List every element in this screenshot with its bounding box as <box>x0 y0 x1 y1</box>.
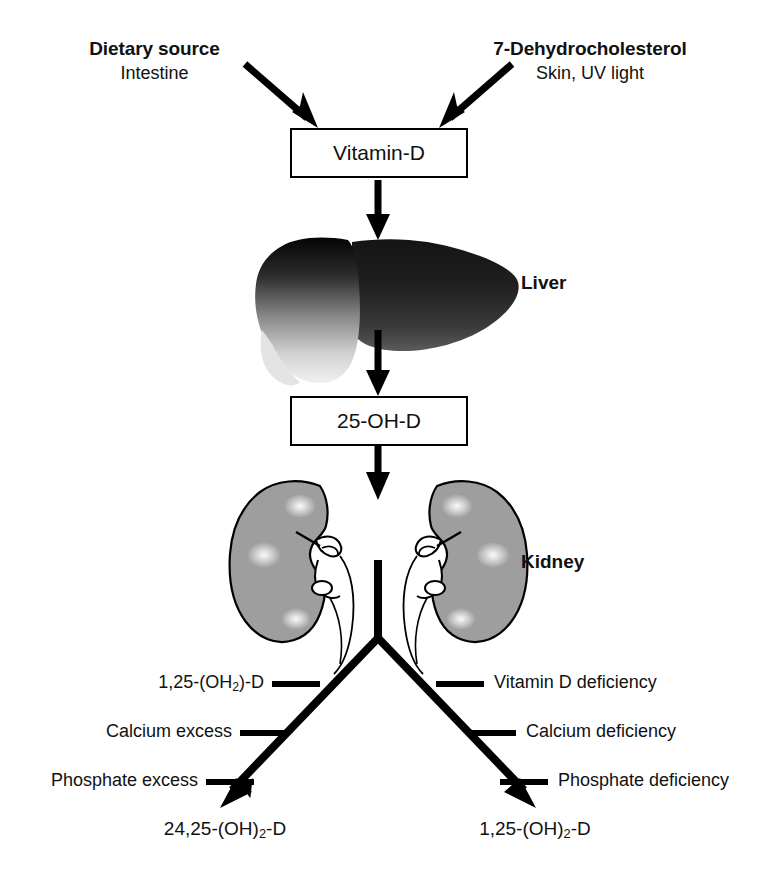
terminal-right-prefix: 1,25-(OH) <box>479 818 563 839</box>
node-box-vitamin-d-label: Vitamin-D <box>333 141 425 165</box>
right-regulator-2: Calcium deficiency <box>526 721 676 742</box>
arrow-vitamind-to-liver <box>366 180 390 240</box>
source-dietary: Dietary source Intestine <box>62 38 247 84</box>
left-regulator-1-prefix: 1,25-(OH <box>158 672 232 692</box>
terminal-left-suffix: -D <box>266 818 286 839</box>
left-regulator-1: 1,25-(OH2)-D <box>0 672 264 693</box>
node-box-25-oh-d: 25-OH-D <box>290 396 468 446</box>
organ-label-liver: Liver <box>521 272 566 294</box>
terminal-left-prefix: 24,25-(OH) <box>164 818 259 839</box>
right-regulator-3: Phosphate deficiency <box>558 770 729 791</box>
node-box-25-oh-d-label: 25-OH-D <box>337 409 421 433</box>
terminal-product-right: 1,25-(OH)2-D <box>420 818 650 840</box>
left-regulator-3: Phosphate excess <box>0 770 198 791</box>
terminal-left-sub: 2 <box>259 826 266 841</box>
vitamin-d-metabolism-diagram: Dietary source Intestine 7-Dehydrocholes… <box>0 0 757 873</box>
terminal-product-left: 24,25-(OH)2-D <box>110 818 340 840</box>
source-dietary-subtitle: Intestine <box>62 63 247 84</box>
node-box-vitamin-d: Vitamin-D <box>290 128 468 178</box>
liver-illustration <box>255 238 519 386</box>
left-regulator-2: Calcium excess <box>0 721 232 742</box>
arrow-dietary-to-vitamind <box>245 64 318 128</box>
source-skin-title: 7-Dehydrocholesterol <box>470 38 710 60</box>
source-skin-subtitle: Skin, UV light <box>470 63 710 84</box>
organ-label-kidney: Kidney <box>521 551 584 573</box>
left-regulator-1-suffix: )-D <box>239 672 264 692</box>
terminal-right-sub: 2 <box>564 826 571 841</box>
kidney-left-illustration <box>230 481 354 674</box>
right-regulator-1: Vitamin D deficiency <box>494 672 657 693</box>
source-dietary-title: Dietary source <box>62 38 247 60</box>
kidney-right-illustration <box>404 481 528 674</box>
left-regulator-1-sub: 2 <box>232 680 239 694</box>
terminal-right-suffix: -D <box>571 818 591 839</box>
arrow-25ohd-to-kidney <box>366 446 390 500</box>
source-skin: 7-Dehydrocholesterol Skin, UV light <box>470 38 710 84</box>
